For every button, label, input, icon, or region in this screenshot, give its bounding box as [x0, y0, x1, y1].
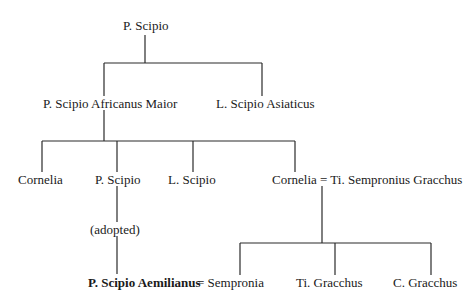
node-asiaticus: L. Scipio Asiaticus — [216, 96, 315, 111]
tree-connectors — [0, 0, 474, 307]
node-aemilianus: P. Scipio Aemilianus — [88, 275, 201, 290]
node-p-scipio-child: P. Scipio — [95, 172, 141, 187]
node-l-scipio: L. Scipio — [168, 172, 216, 187]
node-c-gracchus: C. Gracchus — [393, 275, 457, 290]
node-p-scipio-root: P. Scipio — [123, 18, 169, 33]
node-cornelia-marriage: Cornelia = Ti. Sempronius Gracchus — [272, 172, 462, 187]
node-sempronia: = Sempronia — [197, 275, 264, 290]
node-cornelia: Cornelia — [18, 172, 63, 187]
node-ti-gracchus: Ti. Gracchus — [296, 275, 363, 290]
adopted-note: (adopted) — [90, 222, 140, 237]
node-africanus: P. Scipio Africanus Maior — [43, 96, 177, 111]
